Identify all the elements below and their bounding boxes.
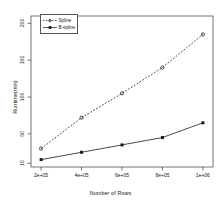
legend-item-series1: Spline (43, 17, 75, 24)
x-tick-label: 2e+05 (34, 172, 48, 178)
x-tick-label: 4e+05 (75, 172, 89, 178)
y-axis-title: Runtime(min) (12, 42, 18, 152)
dashed-line-marker-icon (43, 17, 57, 24)
y-tick-label: 50 (19, 131, 25, 137)
chart-legend: Spline B-spline (40, 14, 78, 34)
x-tick-label: 6e+05 (115, 172, 129, 178)
x-axis-title: Number of Rows (0, 190, 221, 196)
legend-item-series2: B-spline (43, 24, 75, 31)
legend-label-series1: Spline (59, 18, 72, 23)
legend-label-series2: B-spline (59, 25, 76, 30)
x-tick-label: 1e+06 (196, 172, 210, 178)
y-tick-label: 10 (19, 161, 25, 167)
x-tick-label: 8e+05 (155, 172, 169, 178)
y-tick-label: 200 (19, 19, 25, 27)
solid-line-marker-icon (43, 24, 57, 31)
runtime-line-chart: Number of Rows Runtime(min) 2e+054e+056e… (0, 0, 221, 205)
y-tick-label: 100 (19, 93, 25, 101)
y-tick-label: 150 (19, 56, 25, 64)
